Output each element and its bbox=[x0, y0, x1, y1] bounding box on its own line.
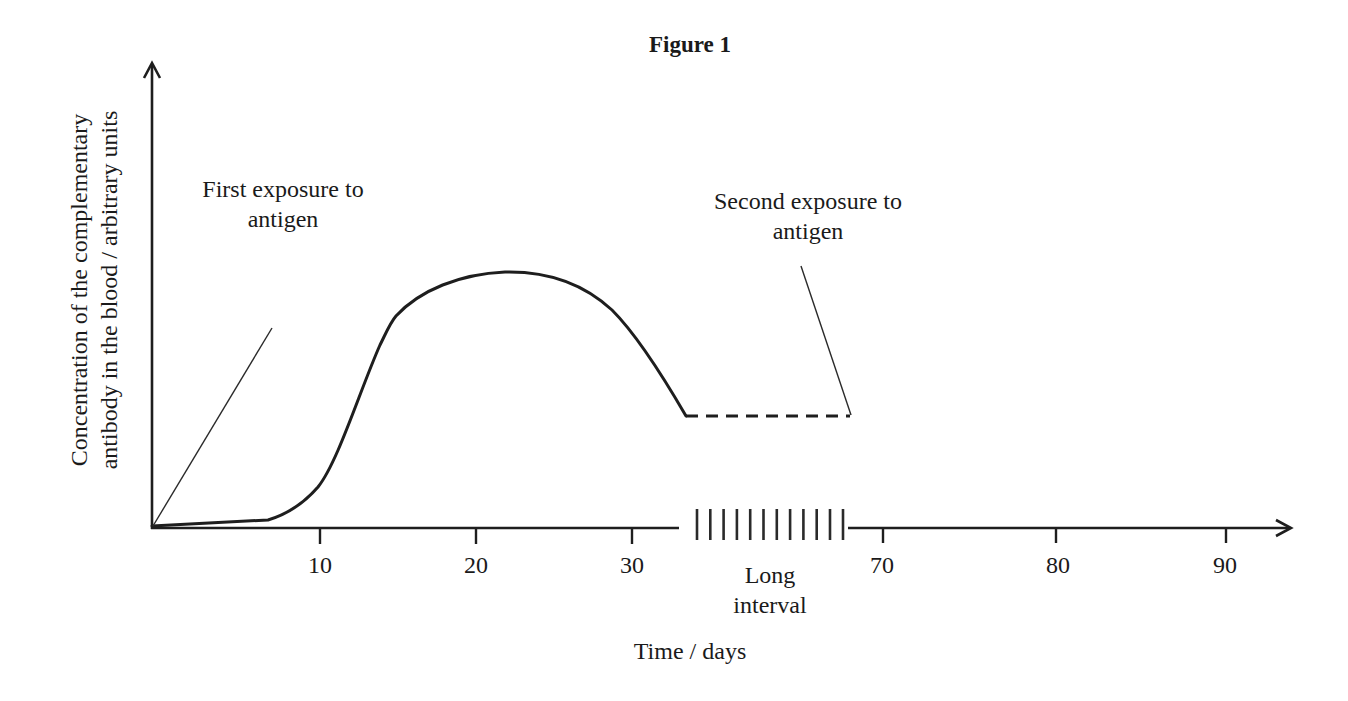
y-axis-title-line-1: Concentration of the complementary bbox=[64, 40, 94, 540]
x-axis-title: Time / days bbox=[600, 638, 780, 665]
axis-break-hatch bbox=[697, 509, 843, 540]
x-axis-ticks bbox=[320, 528, 1226, 544]
axis-break-label-line-2: interval bbox=[710, 590, 830, 620]
x-tick-label-30: 30 bbox=[602, 552, 662, 579]
first-exposure-annotation: First exposure to antigen bbox=[170, 174, 396, 234]
second-exposure-pointer bbox=[801, 266, 851, 415]
first-exposure-line-2: antigen bbox=[170, 204, 396, 234]
second-exposure-line-2: antigen bbox=[680, 216, 936, 246]
second-exposure-annotation: Second exposure to antigen bbox=[680, 186, 936, 246]
y-axis-title-line-2: antibody in the blood / arbitrary units bbox=[94, 40, 124, 540]
x-tick-label-10: 10 bbox=[290, 552, 350, 579]
first-exposure-pointer bbox=[153, 328, 272, 526]
axis-break-label: Long interval bbox=[710, 560, 830, 620]
x-tick-label-20: 20 bbox=[446, 552, 506, 579]
y-axis-title: Concentration of the complementary antib… bbox=[64, 40, 128, 540]
x-tick-label-80: 80 bbox=[1028, 552, 1088, 579]
x-tick-label-70: 70 bbox=[852, 552, 912, 579]
primary-response-curve bbox=[152, 272, 686, 526]
axis-break-label-line-1: Long bbox=[710, 560, 830, 590]
first-exposure-line-1: First exposure to bbox=[170, 174, 396, 204]
antibody-response-chart bbox=[0, 0, 1348, 701]
x-tick-label-90: 90 bbox=[1195, 552, 1255, 579]
second-exposure-line-1: Second exposure to bbox=[680, 186, 936, 216]
